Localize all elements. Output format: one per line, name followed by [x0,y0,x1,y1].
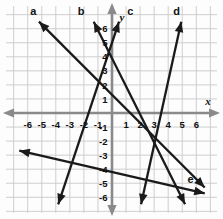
y-tick-label: -6 [99,192,107,203]
y-tick-label: -2 [99,136,107,147]
x-tick-label: -3 [66,119,74,130]
x-tick-label: 5 [180,119,186,130]
x-tick-label: 6 [194,119,199,130]
x-axis-arrow-right [209,108,220,117]
coordinate-plane-svg: -6-5-4-3-2-1123456 654321-1-2-3-4-5-6 xy… [0,0,223,219]
axis-name-labels: xy [118,11,212,107]
y-tick-label: 1 [102,94,108,105]
y-tick-label: -5 [99,178,108,189]
y-tick-label: 3 [102,65,107,76]
line-label-c: c [127,5,133,17]
y-axis-arrow-up [107,3,116,14]
x-tick-label: 1 [123,119,129,130]
y-tick-label: -3 [99,150,107,161]
y-tick-label: -4 [99,164,108,175]
x-tick-label: -2 [80,119,88,130]
x-tick-label: -4 [52,119,61,130]
x-tick-label: 3 [152,119,157,130]
arrowhead-c-start [57,193,65,204]
y-axis-arrow-down [107,205,116,216]
line-label-d: d [173,5,180,17]
line-label-b: b [78,5,85,17]
y-tick-label: 2 [102,80,107,91]
x-axis-arrow-left [3,108,14,117]
x-tick-label: 4 [166,119,172,130]
x-axis-label: x [204,95,211,107]
y-tick-label: 4 [102,51,108,62]
x-tick-label: -6 [23,119,31,130]
plotted-line-a [39,22,205,188]
y-axis-label: y [118,11,125,23]
y-tick-label: -1 [99,122,108,133]
x-tick-label: 2 [137,119,142,130]
x-tick-label: -5 [38,119,47,130]
line-label-e: e [188,173,194,185]
graph-canvas: -6-5-4-3-2-1123456 654321-1-2-3-4-5-6 xy… [0,0,223,219]
line-label-a: a [30,5,37,17]
y-tick-label: 6 [102,23,107,34]
y-tick-label: 5 [102,37,108,48]
